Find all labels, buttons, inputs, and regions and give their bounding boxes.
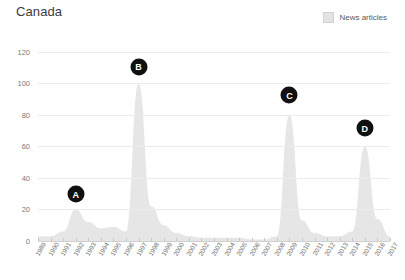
x-tick-mark-1993 [88,238,89,241]
x-tick-label-2008: 2008 [273,241,286,257]
x-tick-mark-1996 [126,238,127,241]
gridline-y-60 [38,146,390,147]
x-tick-label-2003: 2003 [210,241,223,257]
x-tick-label-1992: 1992 [71,241,84,257]
x-tick-mark-1998 [151,238,152,241]
x-tick-mark-2004 [227,238,228,241]
annotation-marker-d[interactable]: D [356,120,373,137]
x-tick-mark-1990 [51,238,52,241]
x-tick-label-2010: 2010 [298,241,311,257]
plot-area [38,44,390,241]
gridline-y-40 [38,178,390,179]
y-tick-label-120: 120 [17,47,30,56]
page-title: Canada [16,4,62,19]
x-tick-label-2015: 2015 [361,241,374,257]
x-tick-label-2002: 2002 [197,241,210,257]
x-tick-label-1991: 1991 [59,241,72,257]
x-tick-label-2011: 2011 [311,241,324,257]
x-tick-mark-2015 [365,238,366,241]
x-tick-label-1994: 1994 [97,241,110,257]
y-tick-label-60: 60 [22,142,30,151]
x-axis: 1989199019911992199319941995199619971998… [38,241,390,280]
x-tick-mark-2005 [239,238,240,241]
x-tick-mark-2000 [176,238,177,241]
x-tick-mark-2007 [264,238,265,241]
x-tick-label-2013: 2013 [335,241,348,257]
x-tick-mark-1992 [76,238,77,241]
y-tick-label-100: 100 [17,79,30,88]
x-tick-mark-2010 [302,238,303,241]
x-tick-mark-2016 [377,238,378,241]
annotation-marker-c[interactable]: C [281,87,298,104]
x-tick-label-2009: 2009 [285,241,298,257]
y-tick-label-0: 0 [26,237,30,246]
x-tick-label-1998: 1998 [147,241,160,257]
x-tick-label-1999: 1999 [159,241,172,257]
x-tick-mark-1994 [101,238,102,241]
x-tick-label-2000: 2000 [172,241,185,257]
x-tick-label-1990: 1990 [46,241,59,257]
gridline-y-20 [38,209,390,210]
x-tick-label-2007: 2007 [260,241,273,257]
area-series-news-articles [38,44,390,241]
gridline-y-100 [38,83,390,84]
x-tick-mark-1997 [139,238,140,241]
x-tick-mark-2008 [277,238,278,241]
x-tick-label-2005: 2005 [235,241,248,257]
x-tick-label-2017: 2017 [386,241,399,257]
gridline-y-120 [38,52,390,53]
x-tick-label-1993: 1993 [84,241,97,257]
x-tick-mark-2014 [352,238,353,241]
x-tick-label-2012: 2012 [323,241,336,257]
x-tick-mark-1995 [113,238,114,241]
x-tick-label-2016: 2016 [373,241,386,257]
x-tick-mark-2012 [327,238,328,241]
y-tick-label-80: 80 [22,110,30,119]
x-tick-mark-2017 [390,238,391,241]
x-tick-mark-2002 [201,238,202,241]
x-tick-label-1995: 1995 [109,241,122,257]
x-tick-label-2006: 2006 [247,241,260,257]
x-tick-label-1997: 1997 [134,241,147,257]
chart-container: Canada News articles 020406080100120 198… [0,0,405,280]
gridline-y-80 [38,115,390,116]
y-tick-label-20: 20 [22,205,30,214]
x-tick-mark-2001 [189,238,190,241]
x-tick-label-1996: 1996 [122,241,135,257]
x-tick-mark-1989 [38,238,39,241]
square-swatch-icon [323,12,334,23]
annotation-marker-a[interactable]: A [67,186,84,203]
annotation-marker-b[interactable]: B [130,58,147,75]
x-tick-label-1989: 1989 [34,241,47,257]
x-tick-mark-2006 [252,238,253,241]
chart-header: Canada News articles [0,0,405,32]
x-tick-mark-2003 [214,238,215,241]
x-tick-mark-1991 [63,238,64,241]
x-tick-mark-1999 [164,238,165,241]
x-tick-mark-2011 [315,238,316,241]
x-tick-label-2014: 2014 [348,241,361,257]
chart-legend: News articles [323,12,387,23]
x-tick-mark-2009 [289,238,290,241]
x-tick-mark-2013 [340,238,341,241]
legend-label-news-articles: News articles [339,13,387,22]
y-tick-label-40: 40 [22,173,30,182]
x-tick-label-2004: 2004 [222,241,235,257]
y-axis: 020406080100120 [0,44,34,241]
x-tick-label-2001: 2001 [185,241,198,257]
